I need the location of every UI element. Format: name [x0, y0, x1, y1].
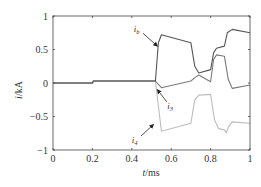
y-tick-label: −0.5: [30, 111, 48, 122]
y-axis-label: i/kA: [13, 80, 24, 99]
series-ib-line: [53, 29, 250, 83]
x-tick-label: 0.2: [86, 153, 99, 164]
y-tick-label: −1: [37, 145, 48, 156]
y-tick-label: 1: [43, 11, 48, 22]
line-chart: 00.20.40.60.8110.50−0.5−1 ibi3i4 i/kA t/…: [0, 0, 261, 187]
x-tick-label: 0: [51, 153, 56, 164]
x-tick-label: 0.6: [165, 153, 178, 164]
x-tick-label: 1: [248, 153, 253, 164]
series-layer: [53, 29, 250, 132]
y-tick-label: 0.5: [36, 44, 49, 55]
label-ib: ib: [134, 24, 141, 35]
x-tick-label: 0.4: [126, 153, 139, 164]
label-i4: i4: [132, 135, 139, 146]
axis-ticks: 00.20.40.60.8110.50−0.5−1: [30, 11, 253, 165]
series-i4-line: [53, 81, 250, 133]
annotation-arrow-icon: [141, 125, 153, 136]
curve-annotations: ibi3i4: [132, 24, 174, 146]
label-i3: i3: [167, 101, 174, 112]
x-axis-label: t/ms: [142, 167, 159, 178]
annotation-arrow-icon: [157, 90, 166, 102]
annotation-arrow-icon: [143, 33, 157, 46]
y-tick-label: 0: [43, 78, 48, 89]
x-tick-label: 0.8: [204, 153, 217, 164]
